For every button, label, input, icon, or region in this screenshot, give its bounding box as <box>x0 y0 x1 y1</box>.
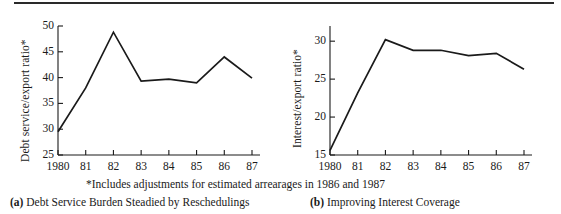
y-tick-label: 45 <box>28 46 54 58</box>
y-tick-label: 30 <box>28 123 54 135</box>
caption-tag-a: (a) <box>10 196 23 208</box>
y-tick-label: 20 <box>300 111 326 123</box>
y-tick-label: 40 <box>28 72 54 84</box>
x-tick-label: 87 <box>508 161 540 173</box>
data-series-line <box>58 32 252 132</box>
caption-panel-b: (b) Improving Interest Coverage <box>310 196 460 208</box>
y-tick-label: 25 <box>300 73 326 85</box>
y-tick-label: 30 <box>300 35 326 47</box>
figure-root: Debt service/export ratio* 2530354045501… <box>0 0 561 214</box>
chart-panel-a: Debt service/export ratio* 2530354045501… <box>2 12 277 182</box>
chart-panel-b: Interest/export ratio* 15202530198081828… <box>278 12 553 182</box>
caption-text-a: Debt Service Burden Steadied by Reschedu… <box>26 196 249 208</box>
y-tick-label: 25 <box>28 149 54 161</box>
y-tick-label: 50 <box>28 20 54 32</box>
caption-tag-b: (b) <box>310 196 324 208</box>
x-tick-label: 87 <box>236 161 268 173</box>
y-tick-label: 35 <box>28 97 54 109</box>
figure-footnote: *Includes adjustments for estimated arre… <box>86 178 385 190</box>
top-horizontal-rule <box>14 2 554 4</box>
y-tick-label: 15 <box>300 149 326 161</box>
caption-text-b: Improving Interest Coverage <box>327 196 460 208</box>
data-series-line <box>330 40 524 151</box>
caption-panel-a: (a) Debt Service Burden Steadied by Resc… <box>10 196 250 208</box>
